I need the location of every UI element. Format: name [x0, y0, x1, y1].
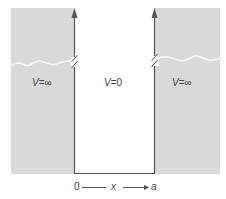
left-potential-symbol: V — [32, 77, 39, 88]
right-region-label: V=∞ — [172, 77, 192, 89]
middle-potential-value: 0 — [117, 77, 123, 88]
axis-end-label: a — [151, 181, 157, 193]
left-region-label: V=∞ — [32, 77, 52, 89]
axis-end-symbol: a — [151, 181, 157, 192]
middle-potential-symbol: V — [104, 77, 111, 88]
axis-variable-label: x — [111, 181, 116, 193]
axis-variable-symbol: x — [111, 181, 116, 192]
axis-start-label: 0 — [74, 181, 80, 193]
left-potential-value: ∞ — [45, 77, 52, 88]
right-infinite-region — [154, 8, 220, 174]
axis-arrow-icon — [144, 185, 149, 190]
right-potential-value: ∞ — [185, 77, 192, 88]
left-infinite-region — [11, 8, 74, 174]
middle-region-label: V=0 — [104, 77, 122, 89]
infinite-square-well-diagram — [0, 0, 226, 199]
right-potential-symbol: V — [172, 77, 179, 88]
